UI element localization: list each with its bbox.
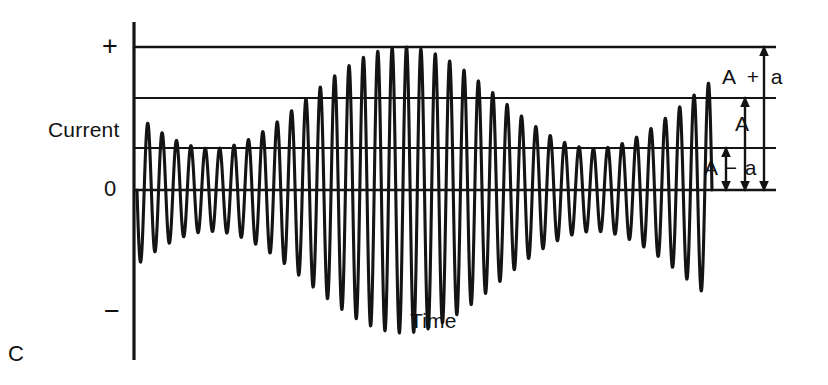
x-axis-title: Time xyxy=(410,310,457,331)
y-tick-plus: + xyxy=(102,33,118,60)
y-axis-title: Current xyxy=(48,119,119,140)
annotation-a-plus-a: A + a xyxy=(722,66,785,87)
y-tick-zero: 0 xyxy=(104,178,116,200)
panel-label: C xyxy=(8,343,24,365)
y-tick-minus: − xyxy=(104,298,120,325)
annotation-a-minus-a: A − a xyxy=(704,157,757,178)
annotation-a: A xyxy=(735,113,749,134)
